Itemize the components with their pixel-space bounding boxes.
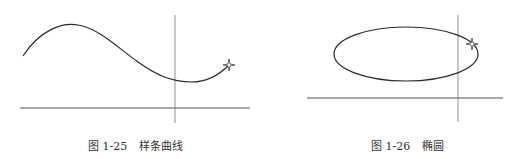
figure-ellipse [307,15,503,122]
figure-caption-1-26: 图 1-26椭圆 [371,137,444,153]
figure-spline [20,15,250,123]
figure-caption-1-25: 图 1-25样条曲线 [88,137,183,153]
figure-title: 椭圆 [422,140,444,153]
spline-curve [23,24,229,82]
figure-number: 图 1-26 [371,140,410,153]
figure-number: 图 1-25 [88,140,127,153]
ellipse-shape [334,27,478,81]
figure-title: 样条曲线 [139,140,183,153]
diagram-canvas [0,0,519,159]
